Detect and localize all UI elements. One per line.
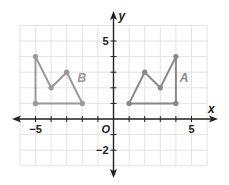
vertex-point [142, 70, 147, 75]
figure-label-A: A [179, 71, 189, 85]
vertex-point [158, 85, 163, 90]
figure-outline [36, 57, 83, 104]
coordinate-plane: BA xyO−555−2 [0, 0, 229, 185]
axes [12, 11, 218, 178]
figure-B: B [33, 54, 87, 106]
vertex-point [33, 54, 38, 59]
vertex-point [33, 101, 38, 106]
origin-label: O [102, 123, 111, 135]
vertex-point [173, 101, 178, 106]
x-tick-label: 5 [188, 123, 194, 135]
vertex-point [173, 54, 178, 59]
y-axis-label: y [118, 9, 127, 23]
y-tick-label: −2 [96, 144, 109, 156]
x-axis-label: x [207, 102, 216, 116]
x-tick-label: −5 [29, 123, 42, 135]
vertex-point [80, 101, 85, 106]
figures: BA [33, 54, 189, 106]
vertex-point [49, 85, 54, 90]
y-tick-label: 5 [102, 35, 108, 47]
vertex-point [127, 101, 132, 106]
figure-outline [129, 57, 176, 104]
vertex-point [64, 70, 69, 75]
figure-A: A [127, 54, 189, 106]
figure-label-B: B [78, 71, 87, 85]
